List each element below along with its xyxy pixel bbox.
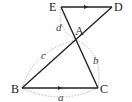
label-a: A [75,24,84,38]
arc-label-b: b [93,54,99,66]
arc-d [60,9,75,40]
label-b: B [11,82,19,96]
label-d: D [114,0,123,14]
label-c: C [100,82,108,96]
label-e: E [49,0,56,14]
arc-label-a: a [58,91,64,102]
arc-label-d: d [56,21,62,33]
parallel-mark-ed [84,5,88,9]
geometry-diagram: E D A B C d c b a [0,0,132,102]
arc-label-c: c [41,49,46,61]
parallel-mark-bc [58,86,62,90]
